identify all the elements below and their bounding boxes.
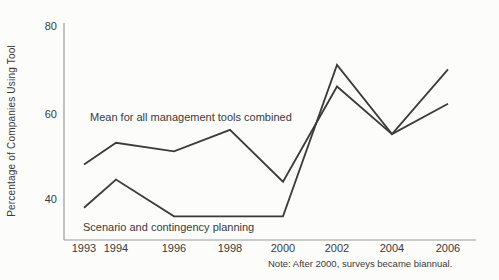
series-label-mean: Mean for all management tools combined — [90, 111, 292, 123]
series-line-1 — [84, 65, 448, 216]
y-tick-label: 40 — [45, 193, 57, 205]
x-tick-label: 2000 — [271, 242, 295, 254]
series-label-scenario: Scenario and contingency planning — [83, 221, 254, 233]
line-chart-svg: 80 60 40 Percentage of Companies Using T… — [0, 0, 499, 280]
x-tick-label: 1998 — [218, 242, 242, 254]
x-tick-label: 2006 — [436, 242, 460, 254]
y-axis-title: Percentage of Companies Using Tool — [6, 45, 17, 217]
x-tick-label: 1996 — [162, 242, 186, 254]
y-tick-label: 80 — [45, 20, 57, 32]
x-tick-label: 1993 — [72, 242, 96, 254]
chart-note: Note: After 2000, surveys became biannua… — [268, 258, 452, 269]
chart: 80 60 40 Percentage of Companies Using T… — [0, 0, 499, 280]
series-line-0 — [84, 87, 448, 182]
x-tick-label: 2004 — [380, 242, 404, 254]
x-tick-label: 2002 — [325, 242, 349, 254]
y-tick-label: 60 — [45, 108, 57, 120]
x-tick-label: 1994 — [104, 242, 128, 254]
series-lines — [84, 65, 448, 216]
